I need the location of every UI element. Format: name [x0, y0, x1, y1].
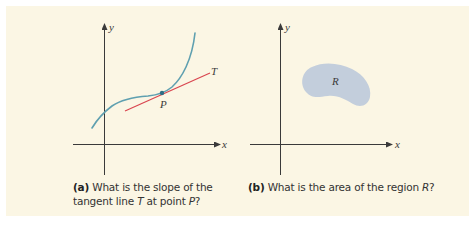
figure-b-x-label: x	[394, 138, 400, 150]
figure-a-caption-line2-mid: at point	[143, 195, 188, 207]
figure-a-curve	[92, 33, 195, 128]
figure-a-caption-tag: (a)	[73, 181, 89, 193]
figure-a-x-label: x	[221, 138, 227, 150]
figure-a-tangent-line	[125, 73, 210, 111]
figure-b-caption-suffix: ?	[429, 181, 434, 193]
figure-a-tangent-diagram: y x T P	[73, 21, 227, 175]
figure-b-region-label: R	[331, 75, 339, 87]
figure-a-tangent-label: T	[211, 65, 218, 77]
figure-a-caption-line1: What is the slope of the	[89, 181, 213, 193]
figure-b-caption-text: What is the area of the region	[265, 181, 422, 193]
figure-b-y-label: y	[284, 21, 290, 33]
figure-a-point-p	[160, 91, 164, 95]
figure-b-caption-tag: (b)	[248, 181, 265, 193]
figure-a-y-label: y	[108, 21, 114, 33]
figure-a-caption-line2-prefix: tangent line	[73, 195, 137, 207]
figure-a-point-label: P	[159, 98, 167, 110]
figure-a-caption-line2-suffix: ?	[195, 195, 200, 207]
figure-b-region-diagram: y x R	[250, 21, 400, 175]
figure-a-caption: (a) What is the slope of the tangent lin…	[73, 180, 233, 208]
figure-b-caption: (b) What is the area of the region R?	[248, 180, 468, 194]
